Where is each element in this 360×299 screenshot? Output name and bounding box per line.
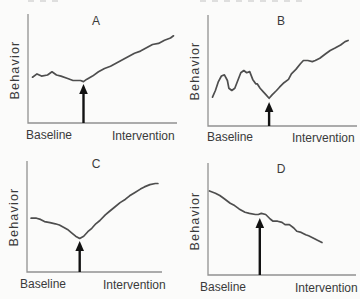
axes [208,163,356,275]
axes [27,161,162,272]
baseline-label: Baseline [200,280,246,294]
behavior-curve [210,191,323,243]
y-axis-label: Behavior [188,42,202,101]
axes [28,14,177,123]
intervention-arrow [75,241,84,272]
panel-letter: B [277,14,285,28]
behavior-curve [31,184,158,239]
behavior-curve [213,41,349,99]
y-axis-label: Behavior [188,192,202,251]
intervention-arrow [255,218,264,275]
intervention-arrow [79,84,88,123]
axes [208,15,357,126]
intervention-label: Intervention [112,129,175,143]
intervention-label: Intervention [103,278,166,292]
intervention-label: Intervention [295,281,358,295]
behavior-curve [33,36,174,82]
figure-svg: A Behavior Baseline Intervention B Behav… [0,0,360,299]
intervention-arrow [265,102,274,126]
panel-b: B Behavior Baseline Intervention [188,14,357,145]
y-axis-label: Behavior [8,41,22,100]
baseline-label: Baseline [207,130,253,144]
panel-a: A Behavior Baseline Intervention [8,14,177,143]
panel-d: D Behavior Baseline Intervention [188,162,358,295]
panel-c: C Behavior Baseline Intervention [7,157,166,292]
y-axis-label: Behavior [7,188,21,247]
panel-letter: A [92,14,100,28]
panel-letter: D [277,162,286,176]
intervention-label: Intervention [292,131,355,145]
baseline-label: Baseline [26,128,72,142]
baseline-label: Baseline [20,277,66,291]
figure-four-ab-graphs: A Behavior Baseline Intervention B Behav… [0,0,360,299]
panel-letter: C [92,157,101,171]
